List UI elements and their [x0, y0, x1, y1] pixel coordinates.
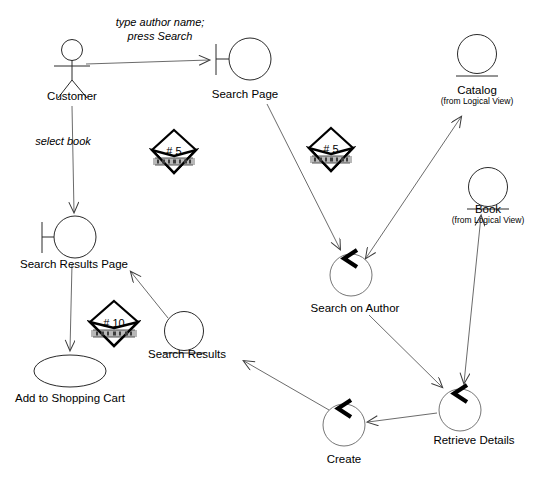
control-icon-create	[323, 400, 365, 446]
node-label-text: Retrieve Details	[433, 434, 514, 446]
entity-icon-search-results	[163, 312, 205, 354]
boundary-icon-search-page	[216, 38, 271, 80]
node-label-add-to-shopping-cart: Add to Shopping Cart	[15, 392, 125, 405]
link-book-to-retrieve-details	[464, 216, 481, 383]
node-label-search-page: Search Page	[212, 88, 279, 101]
node-sublabel-text: (from Logical View)	[441, 97, 514, 107]
sequence-marker-number: # 5	[166, 145, 181, 157]
uml-collaboration-diagram: # 5 # 5	[0, 0, 547, 479]
message-label-line1: select book	[35, 135, 91, 149]
sequence-marker: # 10	[87, 299, 141, 349]
diagram-canvas-svg	[0, 0, 547, 479]
link-search-results-page-to-cart	[70, 264, 72, 350]
node-sublabel-text: (from Logical View)	[452, 216, 525, 226]
link-customer-to-search-results-page	[72, 106, 74, 212]
node-label-search-results: Search Results	[148, 348, 226, 361]
node-label-text: Search Results	[148, 348, 226, 360]
message-label-select-book: select book	[35, 135, 91, 149]
message-label-line1: type author name;	[116, 16, 205, 30]
sequence-marker: # 5	[306, 126, 356, 174]
entity-icon-catalog	[456, 35, 498, 77]
control-icon-search-on-author	[330, 250, 372, 296]
link-create-to-search-results	[244, 361, 329, 410]
node-label-text: Search Results Page	[20, 258, 128, 270]
sequence-marker-number: # 10	[103, 317, 124, 329]
message-label-line2: press Search	[116, 30, 205, 44]
sequence-marker: # 5	[149, 128, 199, 176]
node-label-search-results-page: Search Results Page	[20, 258, 128, 271]
sequence-marker-number: # 5	[323, 143, 338, 155]
link-customer-to-search-page	[86, 60, 209, 64]
node-label-retrieve-details: Retrieve Details	[433, 434, 514, 447]
node-label-text: Create	[327, 453, 362, 465]
node-label-create: Create	[327, 453, 362, 466]
node-label-text: Search on Author	[311, 302, 400, 314]
node-label-text: Search Page	[212, 88, 279, 100]
node-label-text: Catalog	[457, 84, 497, 96]
message-label-type-author-name: type author name; press Search	[116, 16, 205, 44]
link-retrieve-details-to-create	[368, 413, 437, 422]
node-label-text: Customer	[47, 90, 97, 102]
node-label-text: Add to Shopping Cart	[15, 392, 125, 404]
control-icon-retrieve-details	[439, 385, 481, 431]
node-label-customer: Customer	[47, 90, 97, 103]
boundary-icon-search-results-page	[42, 216, 96, 258]
link-search-on-author-to-retrieve-details	[369, 315, 442, 387]
node-label-book: Book (from Logical View)	[452, 203, 525, 226]
link-search-on-author-to-catalog	[366, 117, 461, 258]
node-label-text: Book	[475, 203, 501, 215]
node-label-catalog: Catalog (from Logical View)	[441, 84, 514, 107]
use-case-ellipse-add-to-cart	[34, 355, 106, 387]
node-label-search-on-author: Search on Author	[311, 302, 400, 315]
